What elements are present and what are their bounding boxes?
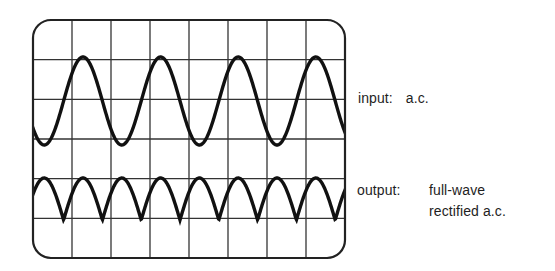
output-label-key: output:	[357, 182, 429, 198]
output-label: output:full-wave	[357, 182, 485, 198]
output-label-value-line1: full-wave	[429, 182, 485, 198]
input-label-key: input:	[358, 90, 393, 106]
oscilloscope-diagram	[0, 0, 555, 271]
oscilloscope-grid	[33, 20, 345, 258]
output-label-line2: rectified a.c.	[429, 203, 506, 219]
output-label-value-line2: rectified a.c.	[429, 203, 506, 219]
input-label: input: a.c.	[358, 90, 429, 106]
input-label-value: a.c.	[406, 90, 429, 106]
